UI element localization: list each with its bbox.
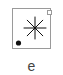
diagram-canvas: e [0,0,63,75]
panel-label: e [0,58,63,74]
filled-dot-icon [16,40,21,45]
star-center-dot [34,27,37,30]
